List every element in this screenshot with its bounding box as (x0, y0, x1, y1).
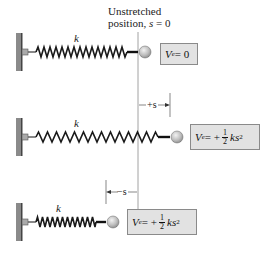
fraction-one-half: 12 (159, 214, 165, 231)
unstretched-position-label: Unstretched position, s = 0 (108, 5, 170, 29)
displacement-label-positive: +s (147, 99, 157, 111)
row-stretched (16, 93, 183, 156)
spring-constant-label: k (56, 202, 61, 214)
wall-icon (16, 203, 21, 241)
wall-icon (16, 33, 21, 71)
header-line-2: position, s = 0 (108, 17, 170, 29)
mass-ball-icon (107, 216, 119, 228)
wall-mount-icon (22, 219, 28, 225)
fraction-one-half: 12 (222, 129, 228, 146)
energy-box-stretched: Ve = + 12ks2 (190, 124, 260, 150)
arrow-left-icon (106, 190, 111, 194)
mass-ball-icon (139, 46, 151, 58)
wall-mount-icon (22, 134, 28, 140)
spring-icon (36, 132, 158, 142)
displacement-label-negative: −s (117, 186, 127, 198)
arrow-right-icon (165, 103, 170, 107)
header-line-1: Unstretched (108, 5, 170, 17)
spring-constant-label: k (74, 117, 79, 129)
wall-icon (16, 118, 21, 156)
energy-box-unstretched: Ve = 0 (160, 43, 198, 65)
energy-box-compressed: Ve = + 12ks2 (127, 209, 197, 235)
wall-mount-icon (22, 49, 28, 55)
row-unstretched (16, 33, 151, 71)
spring-icon (36, 47, 127, 57)
mass-ball-icon (171, 131, 183, 143)
spring-icon (36, 217, 96, 227)
spring-constant-label: k (74, 32, 79, 44)
